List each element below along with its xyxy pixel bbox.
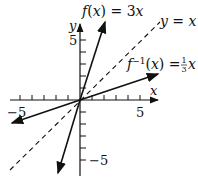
- y-tick-neg5: −5: [89, 153, 108, 168]
- f-label: f(x) = 3x: [81, 3, 144, 19]
- inverse-frac-den: 3: [181, 65, 186, 74]
- inverse-frac-num: 1: [181, 56, 186, 65]
- x-tick-neg5: −5: [7, 105, 26, 120]
- inverse-line: [80, 74, 158, 100]
- identity-label: y = x: [159, 13, 197, 29]
- x-tick-pos5: 5: [136, 105, 144, 120]
- y-tick-pos5: 5: [69, 33, 77, 48]
- x-axis-label: x: [150, 83, 158, 98]
- graph: f(x) = 3x y = x f−1(x) = 1 3 x x y −5 5 …: [0, 0, 198, 179]
- f-line-neg: [58, 100, 80, 173]
- y-axis-label: y: [68, 18, 77, 33]
- inverse-label: f−1(x) =: [126, 56, 181, 72]
- f-line: [80, 22, 105, 100]
- inverse-var: x: [188, 56, 196, 72]
